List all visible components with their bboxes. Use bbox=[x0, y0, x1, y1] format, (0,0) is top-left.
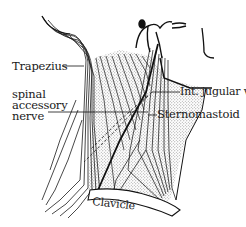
ear-outline bbox=[202, 28, 214, 58]
label-sternomastoid: Sternomastoid bbox=[157, 109, 240, 120]
label-line: nerve bbox=[12, 111, 67, 122]
label-spinal-accessory-nerve: spinal accessory nerve bbox=[12, 89, 67, 122]
label-trapezius: Trapezius bbox=[12, 61, 67, 72]
label-int-jugular-vein: Int. jugular v. bbox=[180, 86, 246, 97]
